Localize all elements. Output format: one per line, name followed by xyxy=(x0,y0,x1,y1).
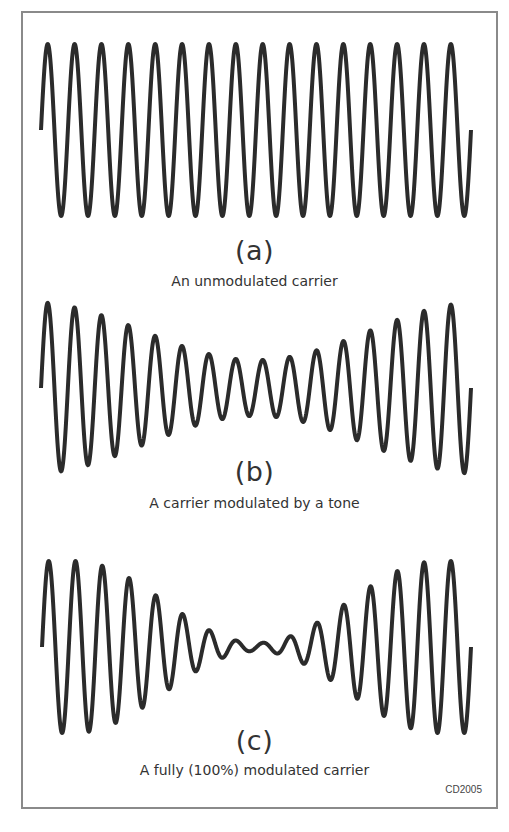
waveform-canvas xyxy=(0,0,509,832)
panel-a-caption: An unmodulated carrier xyxy=(0,272,509,290)
panel-a-label: (a) xyxy=(0,236,509,266)
figure-code-label: CD2005 xyxy=(430,784,482,796)
unmodulated-carrier-wave xyxy=(41,44,471,216)
panel-b-caption: A carrier modulated by a tone xyxy=(0,494,509,512)
panel-c-label: (c) xyxy=(0,726,509,756)
tone-modulated-carrier-wave xyxy=(41,303,471,473)
panel-c-caption: A fully (100%) modulated carrier xyxy=(0,761,509,779)
fully-modulated-carrier-wave xyxy=(42,561,471,733)
panel-b-label: (b) xyxy=(0,457,509,487)
